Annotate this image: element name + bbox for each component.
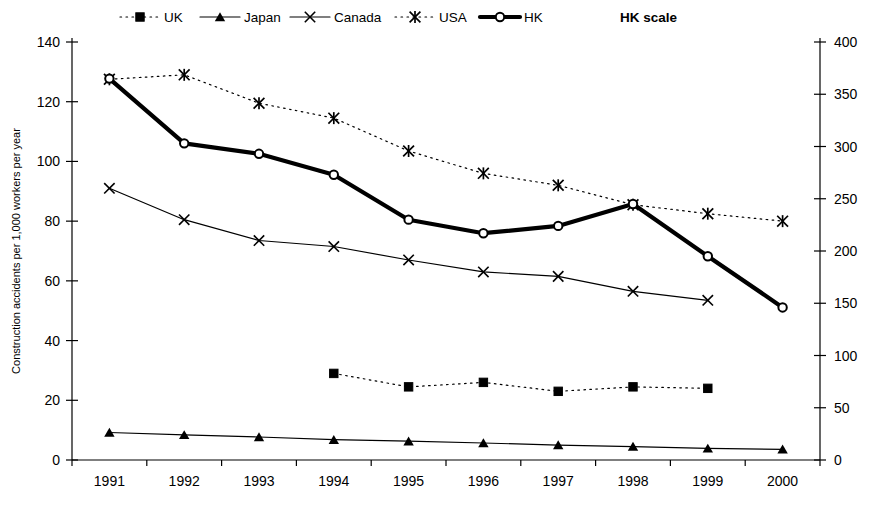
series-line — [109, 188, 707, 300]
x-axis-tick-label: 1995 — [393, 473, 424, 489]
y-axis-left-tick-label: 60 — [44, 273, 60, 289]
series-uk — [330, 369, 712, 395]
legend-label: UK — [164, 10, 183, 25]
y-axis-left-tick-label: 100 — [37, 153, 61, 169]
marker-circle — [180, 139, 188, 147]
series-line — [109, 433, 782, 450]
legend-hk-scale-label: HK scale — [620, 10, 678, 25]
marker-circle — [629, 200, 637, 208]
x-axis-tick-label: 1997 — [543, 473, 574, 489]
legend-item-canada[interactable]: Canada — [290, 10, 382, 25]
y-axis-right-tick-label: 150 — [834, 295, 858, 311]
y-axis-right-tick-label: 0 — [834, 452, 842, 468]
y-axis-left-tick-label: 80 — [44, 213, 60, 229]
y-axis-left-title: Construction accidents per 1,000 workers… — [10, 128, 22, 374]
marker-square — [330, 369, 338, 377]
legend-item-japan[interactable]: Japan — [200, 10, 281, 25]
y-axis-right-tick-label: 100 — [834, 348, 858, 364]
marker-square — [554, 387, 562, 395]
series-canada — [104, 183, 713, 305]
marker-circle — [255, 150, 263, 158]
marker-circle — [704, 252, 712, 260]
y-axis-left-tick-label: 120 — [37, 94, 61, 110]
y-axis-right-tick-label: 350 — [834, 86, 858, 102]
legend-label: USA — [439, 10, 467, 25]
y-axis-right-tick-label: 300 — [834, 139, 858, 155]
series-hk — [105, 74, 787, 311]
marker-circle — [404, 215, 412, 223]
x-axis-tick-label: 1992 — [169, 473, 200, 489]
marker-square — [479, 378, 487, 386]
marker-circle — [554, 222, 562, 230]
y-axis-left-tick-label: 140 — [37, 34, 61, 50]
x-axis-tick-label: 1998 — [617, 473, 648, 489]
x-axis-tick-label: 1991 — [94, 473, 125, 489]
marker-circle — [105, 74, 113, 82]
legend-item-hk[interactable]: HK — [480, 10, 543, 25]
series-japan — [104, 428, 788, 454]
marker-square — [136, 13, 144, 21]
chart-container: 020406080100120140Construction accidents… — [0, 0, 892, 507]
legend-label: Japan — [244, 10, 281, 25]
x-axis-tick-label: 1994 — [318, 473, 349, 489]
legend-label: Canada — [334, 10, 382, 25]
x-axis-tick-label: 2000 — [767, 473, 798, 489]
y-axis-left-tick-label: 40 — [44, 333, 60, 349]
y-axis-left-tick-label: 0 — [52, 452, 60, 468]
marker-circle — [778, 303, 786, 311]
marker-circle — [479, 229, 487, 237]
marker-circle — [330, 171, 338, 179]
line-chart: 020406080100120140Construction accidents… — [0, 0, 892, 507]
y-axis-right-tick-label: 250 — [834, 191, 858, 207]
series-line — [109, 79, 782, 308]
x-axis-tick-label: 1999 — [692, 473, 723, 489]
x-axis-tick-label: 1993 — [243, 473, 274, 489]
x-axis-tick-label: 1996 — [468, 473, 499, 489]
legend-item-usa[interactable]: USA — [395, 10, 467, 25]
marker-square — [404, 383, 412, 391]
y-axis-left-tick-label: 20 — [44, 392, 60, 408]
series-line — [334, 373, 708, 391]
marker-circle — [496, 13, 504, 21]
y-axis-right-tick-label: 200 — [834, 243, 858, 259]
y-axis-right-tick-label: 400 — [834, 34, 858, 50]
y-axis-right-tick-label: 50 — [834, 400, 850, 416]
marker-square — [704, 384, 712, 392]
legend-item-uk[interactable]: UK — [120, 10, 183, 25]
legend-label: HK — [524, 10, 543, 25]
marker-square — [629, 383, 637, 391]
